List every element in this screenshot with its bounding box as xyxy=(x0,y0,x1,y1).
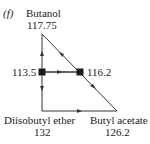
residue-curve-map xyxy=(0,0,150,144)
arrow-up-icon xyxy=(40,51,44,56)
arrow-right-bottom-icon xyxy=(77,109,82,113)
arrow-right-icon xyxy=(57,70,62,74)
node-right-marker xyxy=(77,69,84,76)
node-left-marker xyxy=(39,69,46,76)
arrow-down-icon xyxy=(40,86,44,91)
